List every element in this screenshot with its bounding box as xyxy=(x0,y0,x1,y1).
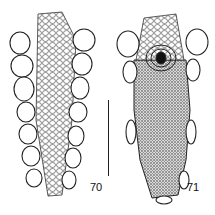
figure-label-71: 71 xyxy=(187,181,199,193)
specimen-70 xyxy=(10,12,95,196)
specimen-71 xyxy=(117,14,208,204)
figure-label-70: 70 xyxy=(90,181,102,193)
central-opening xyxy=(146,45,176,71)
specimen-drawings xyxy=(0,0,215,215)
